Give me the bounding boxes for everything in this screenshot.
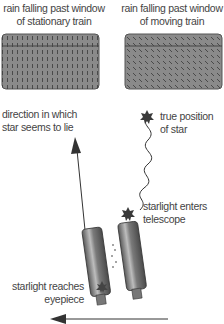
label-line: starlight reaches xyxy=(2,280,84,293)
diagram-canvas xyxy=(0,0,224,324)
apparent-direction-arrow xyxy=(71,137,86,240)
telescope-left-icon xyxy=(82,227,113,306)
label-line: telescope xyxy=(143,213,207,226)
apparent-direction-label: direction in which star seems to lie xyxy=(2,108,77,134)
light-path-dots xyxy=(111,244,117,268)
telescope-right-icon xyxy=(118,221,149,300)
label-line: of star xyxy=(160,123,213,136)
enters-telescope-label: starlight enters telescope xyxy=(143,200,207,226)
true-position-label: true position of star xyxy=(160,110,213,136)
moving-train-window xyxy=(125,34,222,89)
reaches-eyepiece-label: starlight reaches eyepiece xyxy=(2,280,84,306)
stationary-train-window xyxy=(2,34,99,89)
starlight-wave xyxy=(140,118,152,210)
true-star-icon xyxy=(140,110,154,124)
label-line: star seems to lie xyxy=(2,121,77,134)
label-line: starlight enters xyxy=(143,200,207,213)
label-line: true position xyxy=(160,110,213,123)
entering-star-icon xyxy=(121,207,135,221)
label-line: eyepiece xyxy=(2,293,84,306)
motion-arrow xyxy=(50,314,168,324)
label-line: direction in which xyxy=(2,108,77,121)
